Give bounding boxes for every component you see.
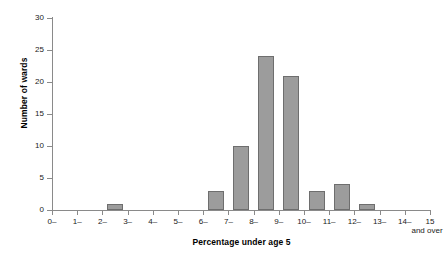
y-tick-label: 0 xyxy=(40,205,44,214)
y-tick-label: 30 xyxy=(35,13,44,22)
x-tick xyxy=(380,211,381,215)
x-tick-label: 11– xyxy=(323,217,336,226)
x-tick xyxy=(254,211,255,215)
x-tick-label: 14– xyxy=(398,217,411,226)
y-tick-label: 15 xyxy=(35,109,44,118)
x-tick xyxy=(304,211,305,215)
x-tick-sublabel: and over xyxy=(411,226,442,235)
bar xyxy=(107,204,123,210)
x-tick xyxy=(153,211,154,215)
x-tick-label: 10– xyxy=(297,217,310,226)
x-axis-title: Percentage under age 5 xyxy=(52,237,431,247)
x-axis-line xyxy=(52,210,431,211)
x-tick-label: 0– xyxy=(48,217,57,226)
x-tick xyxy=(228,211,229,215)
x-tick xyxy=(279,211,280,215)
x-tick-label: 6– xyxy=(199,217,208,226)
x-tick-label: 9– xyxy=(274,217,283,226)
x-tick xyxy=(329,211,330,215)
x-tick xyxy=(52,211,53,215)
y-axis-title: Number of wards xyxy=(19,23,29,163)
y-tick-label: 5 xyxy=(40,173,44,182)
bar xyxy=(233,146,249,210)
x-tick-label: 4– xyxy=(148,217,157,226)
x-tick-label: 3– xyxy=(123,217,132,226)
x-tick xyxy=(405,211,406,215)
bar xyxy=(258,56,274,210)
x-tick-label: 1– xyxy=(73,217,82,226)
x-tick-label: 15 xyxy=(426,217,435,226)
y-tick-label: 20 xyxy=(35,77,44,86)
x-tick-label: 2– xyxy=(98,217,107,226)
x-tick-label: 12– xyxy=(348,217,361,226)
y-tick-label: 10 xyxy=(35,141,44,150)
y-tick-label: 25 xyxy=(35,45,44,54)
x-tick xyxy=(354,211,355,215)
plot-area xyxy=(52,18,430,210)
x-tick-label: 5– xyxy=(174,217,183,226)
x-tick-label: 7– xyxy=(224,217,233,226)
x-tick xyxy=(128,211,129,215)
x-tick-label: 8– xyxy=(249,217,258,226)
bar xyxy=(208,191,224,210)
x-tick xyxy=(430,211,431,215)
x-tick xyxy=(77,211,78,215)
bar xyxy=(359,204,375,210)
bar xyxy=(334,184,350,210)
x-tick xyxy=(203,211,204,215)
histogram-chart: Number of wards 051015202530 0–1–2–3–4–5… xyxy=(0,0,447,262)
bar xyxy=(283,76,299,210)
x-tick-label: 13– xyxy=(373,217,386,226)
x-tick xyxy=(178,211,179,215)
bar xyxy=(309,191,325,210)
x-tick xyxy=(102,211,103,215)
